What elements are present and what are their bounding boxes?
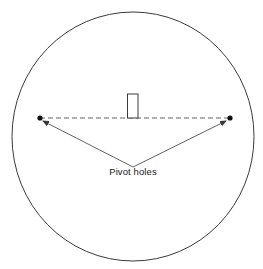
left-leader-arrow	[43, 121, 133, 167]
pivot-diagram	[0, 0, 263, 269]
right-pivot-hole-dot	[227, 115, 232, 120]
pivot-holes-label: Pivot holes	[0, 166, 263, 177]
outer-disc-outline	[12, 12, 254, 261]
rectangular-marker	[128, 94, 139, 118]
right-leader-arrow	[133, 121, 226, 167]
left-pivot-hole-dot	[37, 115, 42, 120]
